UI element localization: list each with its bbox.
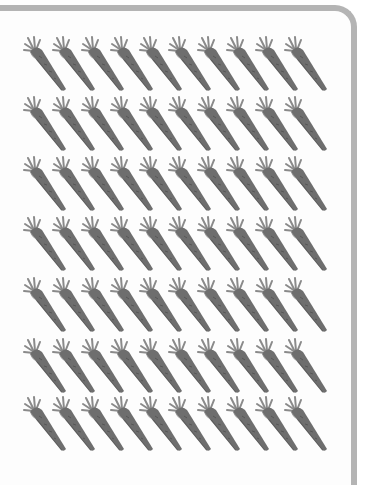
carrot-row — [0, 96, 368, 156]
carrot-icon — [283, 338, 329, 394]
carrot-icon — [283, 36, 329, 92]
carrot-icon — [283, 396, 329, 452]
carrot-row — [0, 36, 368, 96]
carrot-row — [0, 216, 368, 276]
carrot-row — [0, 338, 368, 398]
carrot-icon — [283, 156, 329, 212]
carrot-icon — [283, 96, 329, 152]
carrot-row — [0, 396, 368, 456]
carrot-icon — [283, 216, 329, 272]
carrot-icon — [283, 277, 329, 333]
carrot-row — [0, 156, 368, 216]
carrot-row — [0, 277, 368, 337]
